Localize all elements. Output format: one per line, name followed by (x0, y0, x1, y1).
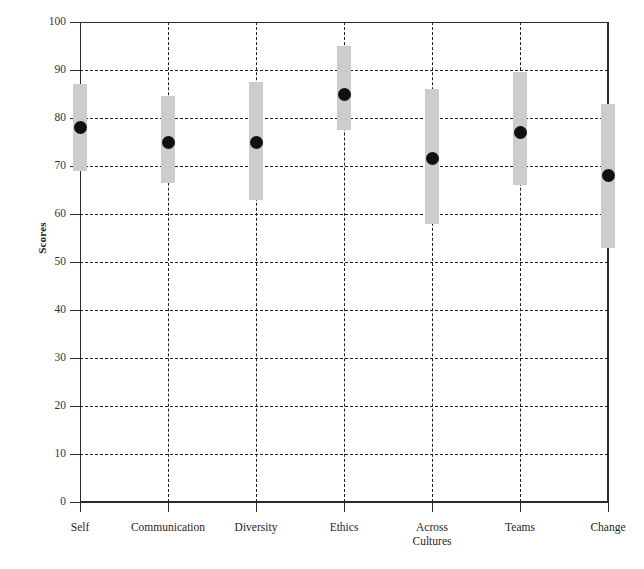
data-point-communication (162, 136, 175, 149)
y-tick-label-70: 70 (26, 160, 66, 172)
y-tick-label-30: 30 (26, 352, 66, 364)
y-tick-30 (70, 358, 80, 359)
y-tick-label-40: 40 (26, 304, 66, 316)
y-tick-label-60: 60 (26, 208, 66, 220)
y-tick-10 (70, 454, 80, 455)
x-tick-6 (608, 502, 609, 512)
y-tick-40 (70, 310, 80, 311)
x-tick-2 (256, 502, 257, 512)
x-tick-3 (344, 502, 345, 512)
data-point-change (602, 169, 615, 182)
y-tick-100 (70, 22, 80, 23)
y-tick-0 (70, 502, 80, 503)
y-tick-60 (70, 214, 80, 215)
data-point-across-cultures (426, 152, 439, 165)
data-point-ethics (338, 88, 351, 101)
y-tick-50 (70, 262, 80, 263)
y-tick-label-90: 90 (26, 64, 66, 76)
data-point-self (74, 121, 87, 134)
data-point-teams (514, 126, 527, 139)
y-tick-label-50: 50 (26, 256, 66, 268)
y-tick-label-80: 80 (26, 112, 66, 124)
x-tick-5 (520, 502, 521, 512)
x-tick-0 (80, 502, 81, 512)
category-line-change (608, 22, 609, 502)
x-tick-4 (432, 502, 433, 512)
y-tick-label-100: 100 (26, 16, 66, 28)
x-tick-1 (168, 502, 169, 512)
y-tick-90 (70, 70, 80, 71)
data-point-diversity (250, 136, 263, 149)
x-axis-label-change: Change (538, 521, 644, 535)
scores-range-chart: Scores 0102030405060708090100 SelfCommun… (0, 0, 644, 569)
category-line-communication (168, 22, 169, 502)
y-tick-label-10: 10 (26, 448, 66, 460)
y-tick-20 (70, 406, 80, 407)
y-tick-label-20: 20 (26, 400, 66, 412)
y-tick-label-0: 0 (26, 496, 66, 508)
